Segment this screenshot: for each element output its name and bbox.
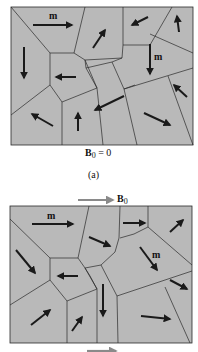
field-equals: = 0 — [96, 147, 112, 158]
field-symbol: B — [117, 193, 124, 204]
applied-field-label: B0 — [117, 193, 128, 206]
panel-a-domains — [11, 7, 193, 145]
domain-moment-label: m — [152, 249, 160, 260]
field-zero-label: B0 = 0 — [85, 147, 111, 160]
field-symbol: B — [85, 147, 92, 158]
field-subscript: 0 — [124, 197, 128, 206]
domain-moment-label: m — [49, 10, 57, 21]
panel-b-domains — [10, 206, 192, 343]
domain-moment-label: m — [47, 210, 55, 221]
panel-a-caption: (a) — [88, 169, 99, 180]
domain-moment-label: m — [154, 51, 162, 62]
